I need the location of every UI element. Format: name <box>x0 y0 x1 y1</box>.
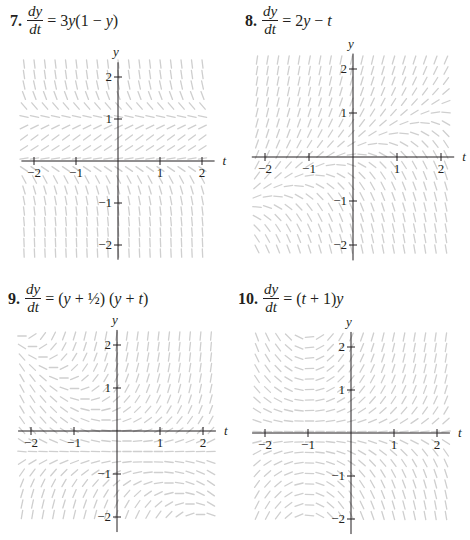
y-tick-label: 2 <box>339 339 346 354</box>
axes <box>252 332 450 534</box>
y-tick-label: 1 <box>339 382 346 397</box>
x-tick-label: −1 <box>301 437 315 452</box>
x-tick-label: 2 <box>434 437 441 452</box>
y-axis-label: y <box>344 314 352 329</box>
x-axis-label: t <box>458 425 462 440</box>
x-tick-label: 1 <box>391 437 398 452</box>
slope-field-plot-10: −2−11221−1−2ty <box>0 0 470 540</box>
y-tick-label: −2 <box>331 511 345 526</box>
y-tick-label: −1 <box>331 468 345 483</box>
x-tick-label: −2 <box>258 437 272 452</box>
